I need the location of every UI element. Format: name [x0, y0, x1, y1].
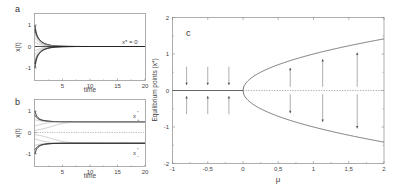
x-tick-label: 0,5 — [274, 166, 283, 172]
x-tick-label: 20 — [142, 83, 149, 89]
trajectory — [35, 122, 145, 126]
panel-a-label: a — [15, 4, 20, 14]
panel-b-xplus-annotation: x — [133, 113, 136, 119]
panel-c-ticks: -1-0,500,511,52-2-1012 — [164, 15, 387, 173]
panel-b-trajectories — [35, 111, 145, 154]
x-tick-label: 5 — [61, 83, 65, 89]
arrowhead — [289, 111, 291, 113]
x-tick-label: 15 — [114, 169, 121, 175]
panel-c-branches — [173, 39, 385, 142]
arrowhead — [185, 96, 187, 98]
x-tick-label: 0 — [241, 166, 245, 172]
panel-c-ylabel: Equilibrium points (x*) — [151, 58, 159, 121]
y-tick-label: 0 — [166, 88, 170, 94]
y-tick-label: 1 — [28, 108, 32, 114]
x-tick-label: 20 — [142, 169, 149, 175]
arrowhead — [321, 119, 323, 121]
y-tick-label: -1 — [164, 124, 170, 130]
x-tick-label: 5 — [61, 169, 65, 175]
panel-b-xminus-annotation: x — [133, 150, 136, 156]
panel-a-trajectories — [35, 25, 145, 68]
arrowhead — [289, 68, 291, 70]
trajectory — [35, 122, 145, 131]
panel-b-label: b — [15, 97, 20, 107]
x-tick-label: 1 — [312, 166, 316, 172]
panel-b-ylabel: x(t) — [14, 128, 22, 137]
panel-a-equilibrium-annotation: x* = 0 — [122, 39, 138, 45]
panel-a-xlabel: time — [84, 86, 97, 93]
panel-b-xminus-star: * — [137, 147, 139, 152]
y-tick-label: 2 — [166, 15, 170, 21]
panel-b-axes — [35, 100, 146, 167]
figure-svg: a 5101520-101 time x(t) x* = 0 b 5101520… — [0, 0, 399, 185]
arrowhead — [356, 126, 358, 128]
y-tick-label: 0 — [28, 44, 32, 50]
panel-a-ticks: 5101520-101 — [26, 22, 149, 89]
y-tick-label: -1 — [26, 65, 32, 71]
x-tick-label: 15 — [114, 83, 121, 89]
trajectory — [35, 47, 145, 69]
panel-a-time-series: a 5101520-101 time x(t) x* = 0 — [14, 4, 149, 93]
trajectory — [35, 143, 145, 149]
x-tick-label: 2 — [382, 166, 386, 172]
trajectory — [35, 47, 145, 64]
y-tick-label: 1 — [166, 51, 170, 57]
arrowhead — [321, 59, 323, 61]
arrowhead — [207, 96, 209, 98]
y-tick-label: -2 — [164, 161, 170, 167]
y-tick-label: -1 — [26, 151, 32, 157]
trajectory — [35, 143, 145, 154]
panel-b-xminus-sub: − — [137, 154, 140, 159]
x-tick-label: -0,5 — [203, 166, 214, 172]
y-tick-label: 1 — [28, 22, 32, 28]
arrowhead — [228, 96, 230, 98]
upper-stable-branch — [243, 39, 384, 91]
trajectory — [35, 135, 145, 144]
lower-stable-branch — [243, 91, 384, 143]
trajectory — [35, 47, 145, 60]
arrowhead — [207, 83, 209, 85]
trajectory — [35, 111, 145, 122]
arrowhead — [228, 83, 230, 85]
panel-a-ylabel: x(t) — [14, 42, 22, 51]
trajectory — [35, 139, 145, 143]
figure: a 5101520-101 time x(t) x* = 0 b 5101520… — [0, 0, 399, 185]
panel-c-xlabel: μ — [276, 175, 281, 184]
trajectory — [35, 115, 145, 121]
panel-c-bifurcation-diagram: c -1-0,500,511,52-2-1012 μ Equilibrium p… — [151, 15, 386, 185]
panel-c-label: c — [186, 28, 191, 38]
arrowhead — [185, 83, 187, 85]
panel-b-xplus-star: * — [137, 110, 139, 115]
panel-b-xlabel: time — [84, 172, 97, 179]
panel-b-xplus-sub: + — [137, 117, 140, 122]
arrowhead — [356, 53, 358, 55]
x-tick-label: -1 — [170, 166, 176, 172]
y-tick-label: 0 — [28, 130, 32, 136]
panel-b-time-series: b 5101520-101 time x(t) x * + x * − — [14, 97, 149, 179]
x-tick-label: 1,5 — [345, 166, 354, 172]
